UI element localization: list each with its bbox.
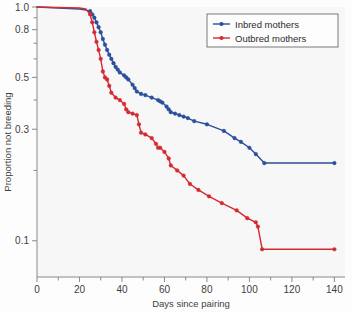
data-point <box>239 140 243 144</box>
data-point <box>131 83 135 87</box>
data-point <box>135 113 139 117</box>
x-tick-label-100: 100 <box>241 284 258 295</box>
data-point <box>133 86 137 90</box>
y-tick-label-1.0: 1.0 <box>15 2 29 13</box>
data-point <box>248 146 252 150</box>
data-point <box>220 201 224 205</box>
data-point <box>139 131 143 135</box>
data-point <box>175 169 179 173</box>
data-point <box>235 208 239 212</box>
x-tick-label-0: 0 <box>34 284 40 295</box>
data-point <box>233 136 237 140</box>
x-tick-label-120: 120 <box>284 284 301 295</box>
data-point <box>112 61 116 65</box>
data-point <box>122 102 126 106</box>
legend-label: Inbred mothers <box>235 19 299 30</box>
data-point <box>169 164 173 168</box>
data-point <box>131 112 135 116</box>
data-point <box>197 188 201 192</box>
data-point <box>186 116 190 120</box>
data-point <box>93 30 97 34</box>
y-axis-title: Proportion not breeding <box>2 92 13 191</box>
data-point <box>207 194 211 198</box>
legend-marker-dot <box>219 36 223 40</box>
data-point <box>254 220 258 224</box>
data-point <box>192 119 196 123</box>
x-axis-title: Days since pairing <box>152 298 230 309</box>
data-point <box>333 161 337 165</box>
data-point <box>95 40 99 44</box>
data-point <box>169 110 173 114</box>
data-point <box>105 78 109 82</box>
data-point <box>173 112 177 116</box>
survival-curve-figure: 1.00.80.50.30.1 020406080100120140 Days … <box>0 0 352 313</box>
data-point <box>163 150 167 154</box>
data-point <box>109 57 113 61</box>
data-point <box>205 122 209 126</box>
data-point <box>97 25 101 29</box>
data-point <box>150 136 154 140</box>
data-point <box>143 133 147 137</box>
data-point <box>88 13 92 17</box>
data-point <box>109 91 113 95</box>
data-point <box>90 20 94 24</box>
x-tick-label-140: 140 <box>326 284 343 295</box>
chart-canvas: 1.00.80.50.30.1 020406080100120140 Days … <box>0 0 352 313</box>
x-tick-label-40: 40 <box>116 284 128 295</box>
data-point <box>126 78 130 82</box>
data-point <box>105 48 109 52</box>
data-point <box>150 96 154 100</box>
data-point <box>139 92 143 96</box>
data-point <box>107 53 111 57</box>
y-tick-label-0.1: 0.1 <box>15 235 29 246</box>
data-point <box>114 96 118 100</box>
x-tick-label-60: 60 <box>159 284 171 295</box>
x-tick-label-20: 20 <box>74 284 86 295</box>
data-point <box>160 101 164 105</box>
data-point <box>118 98 122 102</box>
data-point <box>99 57 103 61</box>
data-point <box>137 122 141 126</box>
y-tick-label-0.3: 0.3 <box>15 124 29 135</box>
data-point <box>182 174 186 178</box>
y-tick-label-0.8: 0.8 <box>15 24 29 35</box>
data-point <box>126 110 130 114</box>
data-point <box>95 20 99 24</box>
data-point <box>135 90 139 94</box>
data-point <box>103 43 107 47</box>
data-point <box>101 70 105 74</box>
data-point <box>188 182 192 186</box>
data-point <box>222 129 226 133</box>
data-point <box>254 152 258 156</box>
data-point <box>154 142 158 146</box>
data-point <box>177 113 181 117</box>
legend-label: Outbred mothers <box>235 33 307 44</box>
y-tick-label-0.5: 0.5 <box>15 72 29 83</box>
data-point <box>256 225 260 229</box>
data-point <box>167 157 171 161</box>
plot-area-background <box>37 7 345 277</box>
data-point <box>182 115 186 119</box>
data-point <box>101 37 105 41</box>
data-point <box>158 146 162 150</box>
data-point <box>118 71 122 75</box>
data-point <box>93 16 97 20</box>
x-tick-label-80: 80 <box>201 284 213 295</box>
data-point <box>333 247 337 251</box>
data-point <box>99 30 103 34</box>
data-point <box>143 93 147 97</box>
data-point <box>107 84 111 88</box>
data-point <box>97 48 101 52</box>
data-point <box>245 216 249 220</box>
data-point <box>262 161 266 165</box>
legend-marker-dot <box>219 22 223 26</box>
data-point <box>260 247 264 251</box>
chart-legend[interactable]: Inbred mothersOutbred mothers <box>207 14 338 47</box>
